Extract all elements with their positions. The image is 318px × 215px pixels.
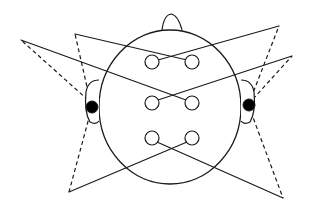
electrode-R1 (185, 55, 199, 69)
nose-outline (162, 14, 182, 30)
head-outline (99, 30, 241, 184)
diagram-canvas (0, 0, 318, 215)
electrode-L3 (145, 131, 159, 145)
electrode-R3 (185, 131, 199, 145)
electrode-L2 (145, 96, 159, 110)
electrode-R2 (185, 96, 199, 110)
head-outline-group (99, 14, 241, 184)
scalp-electrodes-group (145, 55, 199, 145)
eeg-montage-diagram (0, 0, 318, 215)
solid-line-A-R2 (21, 40, 186, 100)
reference-electrode-ref-left (86, 101, 98, 113)
reference-electrodes-group (86, 99, 255, 113)
solid-line-C-L1 (158, 26, 279, 60)
ears-group (86, 80, 255, 123)
electrode-L1 (145, 55, 159, 69)
dashed-line-ref-left-E (69, 114, 90, 192)
dashed-line-ref-right-F (251, 112, 283, 198)
solid-line-F-L3 (157, 142, 283, 198)
reference-electrode-ref-right (243, 99, 255, 111)
